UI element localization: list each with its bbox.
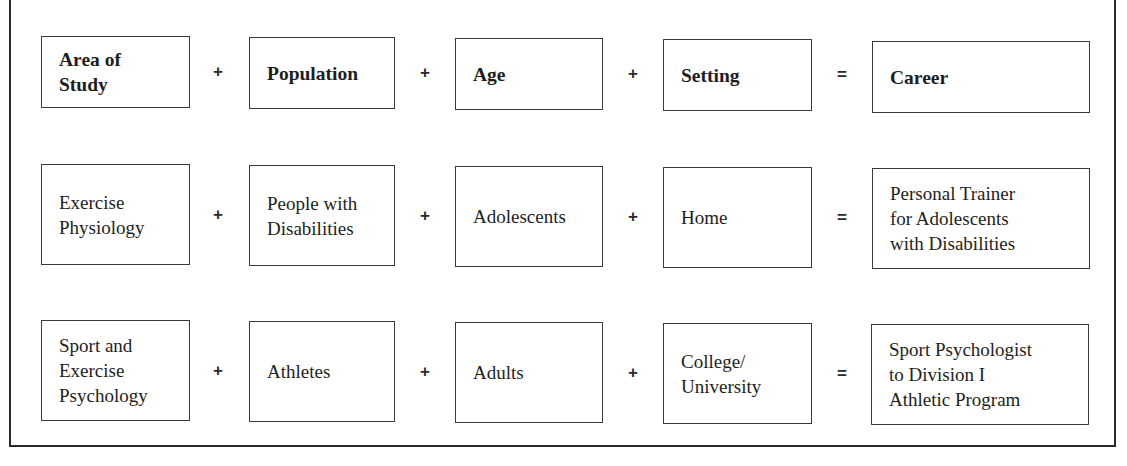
plus-operator: + (623, 64, 643, 84)
example-1-area-of-study: Exercise Physiology (59, 190, 145, 240)
plus-operator: + (623, 207, 643, 227)
example-2-area-of-study-box: Sport and Exercise Psychology (41, 320, 190, 421)
equals-operator: = (832, 364, 852, 384)
example-2-area-of-study: Sport and Exercise Psychology (59, 333, 148, 408)
header-career-label: Career (890, 65, 948, 90)
equals-operator: = (832, 65, 852, 85)
example-1-career-box: Personal Trainer for Adolescents with Di… (872, 168, 1090, 269)
header-career-box: Career (872, 41, 1090, 113)
example-1-age: Adolescents (473, 204, 566, 229)
example-1-age-box: Adolescents (455, 166, 603, 267)
plus-operator: + (208, 361, 228, 381)
header-area-of-study-label: Area of Study (59, 47, 121, 97)
plus-operator: + (623, 363, 643, 383)
example-2-setting-box: College/ University (663, 323, 812, 424)
header-setting-label: Setting (681, 63, 740, 88)
header-setting-box: Setting (663, 39, 812, 111)
plus-operator: + (208, 62, 228, 82)
example-1-setting-box: Home (663, 167, 812, 268)
example-1-population: People with Disabilities (267, 191, 357, 241)
example-2-career-box: Sport Psychologist to Division I Athleti… (871, 324, 1089, 425)
example-1-area-of-study-box: Exercise Physiology (41, 164, 190, 265)
plus-operator: + (415, 206, 435, 226)
plus-operator: + (415, 63, 435, 83)
example-2-population-box: Athletes (249, 321, 395, 422)
header-population-label: Population (267, 61, 358, 86)
example-2-age-box: Adults (455, 322, 603, 423)
header-age-box: Age (455, 38, 603, 110)
header-age-label: Age (473, 62, 506, 87)
example-2-age: Adults (473, 360, 524, 385)
example-2-setting: College/ University (681, 349, 761, 399)
example-1-career: Personal Trainer for Adolescents with Di… (890, 181, 1015, 256)
example-1-setting: Home (681, 205, 727, 230)
equals-operator: = (832, 208, 852, 228)
plus-operator: + (415, 362, 435, 382)
header-area-of-study-box: Area of Study (41, 36, 190, 108)
example-1-population-box: People with Disabilities (249, 165, 395, 266)
example-2-career: Sport Psychologist to Division I Athleti… (889, 337, 1032, 412)
example-2-population: Athletes (267, 359, 330, 384)
plus-operator: + (208, 205, 228, 225)
header-population-box: Population (249, 37, 395, 109)
